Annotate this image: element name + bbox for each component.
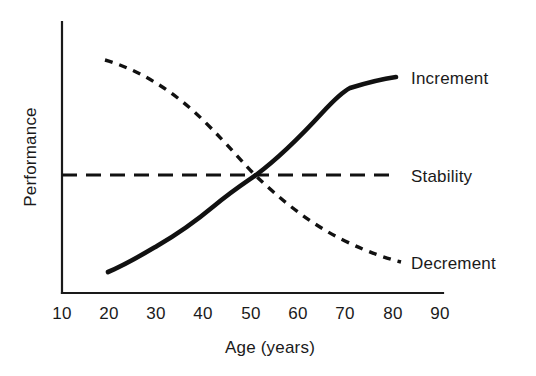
stability-label: Stability: [411, 167, 473, 186]
x-tick-label-20: 20: [99, 304, 118, 323]
increment-label: Increment: [411, 69, 488, 88]
x-tick-label-70: 70: [335, 304, 354, 323]
x-tick-label-90: 90: [430, 304, 449, 323]
x-tick-label-30: 30: [146, 304, 165, 323]
x-tick-label-50: 50: [241, 304, 260, 323]
x-tick-label-40: 40: [193, 304, 212, 323]
x-tick-label-10: 10: [52, 304, 71, 323]
x-tick-label-80: 80: [383, 304, 402, 323]
decrement-label: Decrement: [411, 254, 496, 273]
y-axis-title: Performance: [21, 107, 40, 207]
chart-canvas: 10 20 30 40 50 60 70 80 90 Age (years) P…: [0, 0, 536, 376]
performance-age-chart: 10 20 30 40 50 60 70 80 90 Age (years) P…: [0, 0, 536, 376]
x-axis-title: Age (years): [225, 338, 315, 357]
x-tick-label-60: 60: [288, 304, 307, 323]
